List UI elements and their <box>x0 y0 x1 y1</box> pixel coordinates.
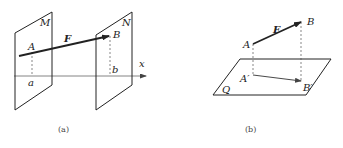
vector-projection-diagram: M N A B a b F x (a) A B A′ B′ F Q (b) <box>0 0 343 148</box>
projected-vector <box>253 75 301 81</box>
figure-a: M N A B a b F x (a) <box>14 12 146 134</box>
label-b-proj: b <box>112 64 118 75</box>
label-b-point: B <box>112 29 120 40</box>
label-a-point: A <box>27 41 35 52</box>
figure-b: A B A′ B′ F Q (b) <box>213 16 331 134</box>
label-b-prime: B′ <box>302 82 313 93</box>
label-q: Q <box>222 84 230 95</box>
label-a-point-b: A <box>242 39 250 50</box>
caption-b: (b) <box>245 125 256 134</box>
label-m: M <box>39 17 51 28</box>
label-b-point-b: B <box>306 16 314 27</box>
label-n: N <box>121 17 132 28</box>
label-a-proj: a <box>28 77 34 88</box>
label-f-vector-a: F <box>63 33 72 44</box>
label-a-prime: A′ <box>239 73 250 84</box>
label-x-axis: x <box>139 58 145 69</box>
label-f-vector-b: F <box>272 24 281 35</box>
caption-a: (a) <box>58 125 69 134</box>
